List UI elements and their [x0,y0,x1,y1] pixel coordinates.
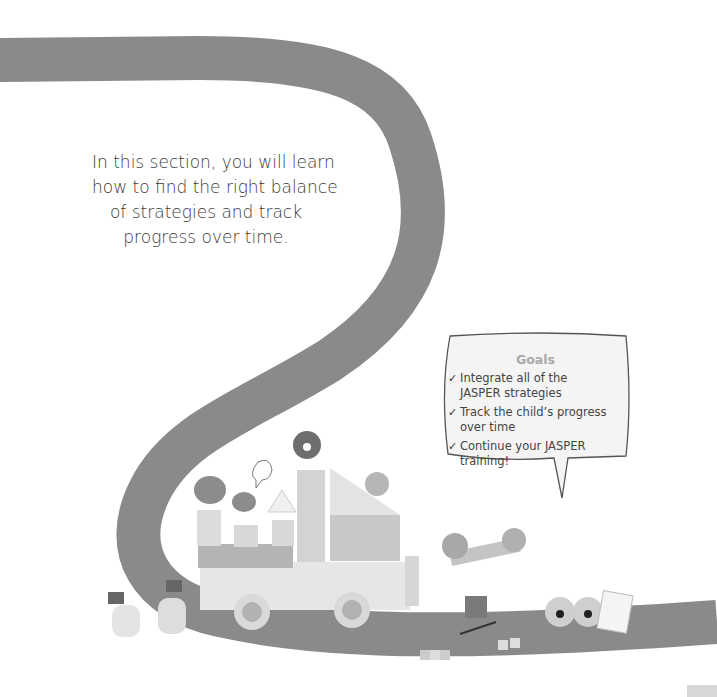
bunny-character-icon [194,476,256,512]
characters-truck-illustration [0,0,717,697]
truck-icon [197,468,419,630]
blocks-icon [420,638,520,660]
page-corner-mark [687,685,717,697]
pair-characters-icon [545,597,603,627]
walking-characters-icon [108,580,186,637]
speech-balloon-icon [252,460,272,488]
map-paper-icon [597,591,633,634]
gift-character-icon [460,596,496,634]
seesaw-characters-icon [442,528,526,566]
onigiri-character-icon [268,490,296,512]
cauliflower-character-icon [365,472,389,496]
donut-character-icon [293,431,321,459]
